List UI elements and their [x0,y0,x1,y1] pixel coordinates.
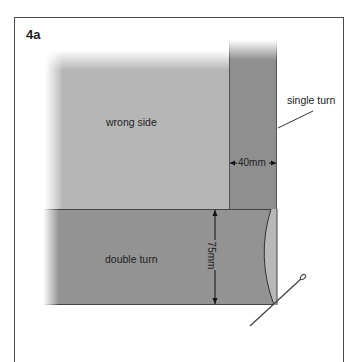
wrong-side-label: wrong side [106,116,157,128]
pin-icon [250,274,307,326]
dimension-75mm-label: 75mm [206,242,217,270]
dimension-40mm-label: 40mm [238,157,266,168]
double-turn-label: double turn [105,253,158,265]
single-turn-leader-line [278,111,313,128]
single-turn-label: single turn [287,94,335,106]
fold-end [264,209,277,305]
